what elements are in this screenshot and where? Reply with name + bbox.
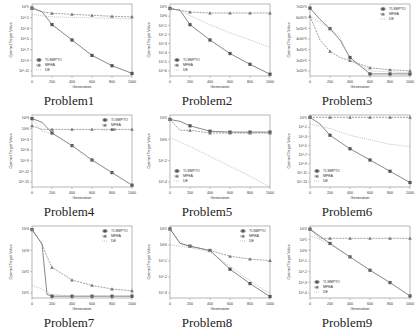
square-marker xyxy=(388,170,391,173)
legend-label-mfea: MFEA xyxy=(389,12,400,16)
y-tick-label: 10^0 xyxy=(300,249,307,253)
legend: TLSMPTOMFEADE xyxy=(174,169,200,183)
square-marker xyxy=(228,52,231,55)
legend: TLSMPTOMFEADE xyxy=(174,58,200,72)
legend-label-mfea: MFEA xyxy=(111,234,122,238)
x-tick-label: 600 xyxy=(367,191,373,195)
chart-problem7: 02004006008001000Generation10^410^310^21… xyxy=(0,222,138,333)
triangle-marker xyxy=(50,266,54,269)
triangle-marker xyxy=(368,66,372,69)
legend-label-de: DE xyxy=(45,68,51,72)
square-marker xyxy=(268,295,271,298)
y-tick-label: 2x10^1 xyxy=(296,59,307,63)
square-marker xyxy=(228,268,231,271)
y-tick-label: 10^0 xyxy=(160,138,167,142)
x-axis-label: Generation xyxy=(73,307,92,311)
square-marker xyxy=(30,117,33,120)
y-tick-label: 6x10^1 xyxy=(296,16,307,20)
y-tick-label: 10^-3 xyxy=(159,291,167,295)
y-tick-label: 10^-2 xyxy=(159,159,167,163)
x-tick-label: 600 xyxy=(227,302,233,306)
square-marker xyxy=(208,38,211,41)
y-tick-label: 10^-5 xyxy=(299,144,307,148)
legend-label-mfea: MFEA xyxy=(183,174,194,178)
y-tick-label: 10^-4 xyxy=(159,51,167,55)
square-marker xyxy=(37,58,40,61)
square-marker xyxy=(408,181,411,184)
square-marker xyxy=(188,124,191,127)
x-tick-label: 200 xyxy=(327,80,333,84)
x-tick-label: 1000 xyxy=(406,302,414,306)
x-tick-label: 600 xyxy=(227,80,233,84)
y-tick-label: 10^3 xyxy=(22,249,29,253)
square-marker xyxy=(130,72,133,75)
y-axis-label: Optimal Target Value xyxy=(147,244,151,279)
legend-label-de: DE xyxy=(389,17,395,21)
y-tick-label: 10^1 xyxy=(22,291,29,295)
x-tick-label: 400 xyxy=(347,80,353,84)
y-tick-label: 10^-1 xyxy=(299,125,307,129)
square-marker xyxy=(70,144,73,147)
x-tick-label: 800 xyxy=(247,191,253,195)
x-tick-label: 400 xyxy=(69,80,75,84)
x-tick-label: 800 xyxy=(247,302,253,306)
chart-problem3: 02004006008001000Generation7x10^16x10^15… xyxy=(278,0,416,111)
x-tick-label: 0 xyxy=(31,302,33,306)
y-tick-label: 10^-2 xyxy=(159,275,167,279)
x-tick-label: 200 xyxy=(327,191,333,195)
x-axis-label: Generation xyxy=(211,85,230,89)
x-tick-label: 400 xyxy=(207,191,213,195)
y-tick-label: 10^2 xyxy=(160,116,167,120)
triangle-marker xyxy=(90,14,94,17)
y-tick-label: 10^0 xyxy=(22,127,29,131)
legend-label-tlsmpto: TLSMPTO xyxy=(323,280,340,284)
y-tick-label: 10^-7 xyxy=(21,48,29,52)
legend-label-mfea: MFEA xyxy=(111,123,122,127)
x-axis-label: Generation xyxy=(211,307,230,311)
legend-label-mfea: MFEA xyxy=(323,285,334,289)
legend-label-tlsmpto: TLSMPTO xyxy=(111,118,128,122)
square-marker xyxy=(50,131,53,134)
y-tick-label: 10^-11 xyxy=(297,171,307,175)
square-marker xyxy=(90,54,93,57)
y-tick-label: 10^-15 xyxy=(19,180,29,184)
x-tick-label: 800 xyxy=(109,191,115,195)
legend-label-de: DE xyxy=(111,239,117,243)
square-marker xyxy=(130,184,133,187)
y-tick-label: 5x10^1 xyxy=(296,27,307,31)
y-tick-label: 10^-5 xyxy=(159,60,167,64)
x-tick-label: 800 xyxy=(109,80,115,84)
chart-caption: Problem3 xyxy=(278,93,416,109)
square-marker xyxy=(50,23,53,26)
x-tick-label: 200 xyxy=(187,191,193,195)
x-tick-label: 200 xyxy=(49,302,55,306)
legend-label-mfea: MFEA xyxy=(249,234,260,238)
chart-caption: Problem5 xyxy=(138,204,276,220)
x-tick-label: 600 xyxy=(227,191,233,195)
y-tick-label: 10^-13 xyxy=(297,180,307,184)
series-de xyxy=(310,124,410,147)
y-tick-label: 10^-2 xyxy=(159,33,167,37)
y-tick-label: 10^-12 xyxy=(19,170,29,174)
square-marker xyxy=(308,7,311,10)
chart-caption: Problem8 xyxy=(138,315,276,331)
triangle-marker xyxy=(328,50,332,53)
x-tick-label: 600 xyxy=(367,302,373,306)
x-tick-label: 400 xyxy=(207,302,213,306)
series-mfea xyxy=(168,7,272,15)
series-de xyxy=(170,245,270,294)
y-tick-label: 10^-4 xyxy=(159,180,167,184)
series-tlsmpto xyxy=(30,117,133,187)
series-tlsmpto xyxy=(30,228,133,298)
y-tick-label: 10^-5 xyxy=(21,37,29,41)
x-tick-label: 1000 xyxy=(266,191,274,195)
x-tick-label: 600 xyxy=(367,80,373,84)
triangle-marker xyxy=(188,129,192,132)
y-tick-label: 10^4 xyxy=(22,227,29,231)
square-marker xyxy=(315,280,318,283)
y-axis-label: Optimal Target Value xyxy=(147,133,151,168)
y-tick-label: 10^-3 xyxy=(21,138,29,142)
x-tick-label: 1000 xyxy=(406,191,414,195)
y-tick-label: 10^0 xyxy=(160,243,167,247)
y-tick-label: 10^3 xyxy=(22,116,29,120)
